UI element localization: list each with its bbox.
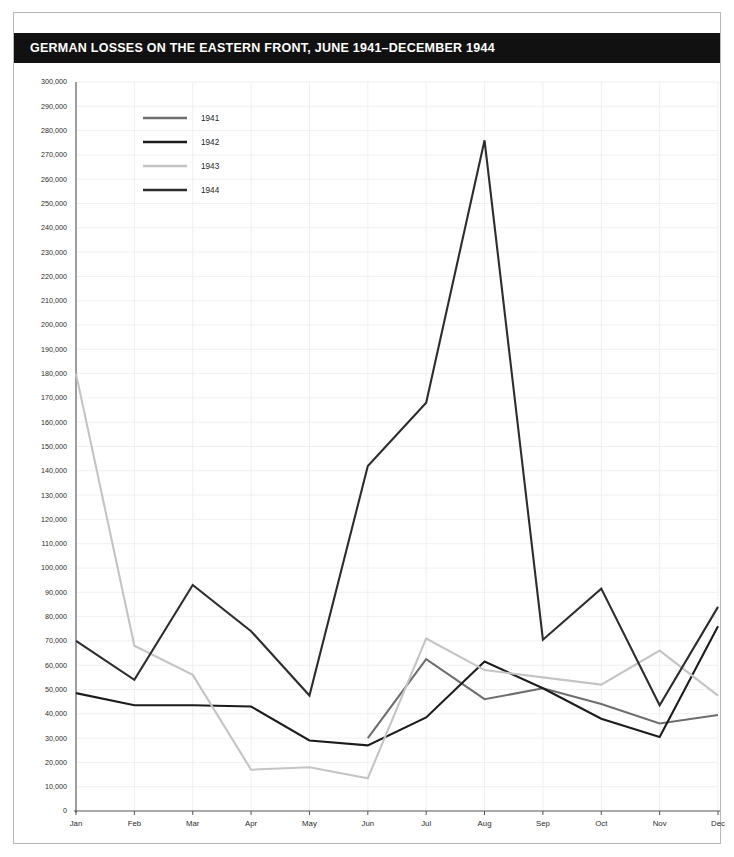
x-axis-tick-label: Jul — [421, 819, 431, 828]
y-axis-tick-label: 10,000 — [45, 782, 67, 791]
x-axis-tick-label: Dec — [711, 819, 725, 828]
x-axis-tick-label: Jan — [70, 819, 83, 828]
y-axis-tick-label: 90,000 — [45, 588, 67, 597]
x-axis-tick-label: Nov — [653, 819, 667, 828]
y-axis-tick-label: 240,000 — [41, 223, 67, 232]
y-axis-tick-label: 230,000 — [41, 248, 67, 257]
legend-label-1944: 1944 — [201, 186, 220, 195]
y-axis-tick-label: 170,000 — [41, 393, 67, 402]
y-axis-tick-label: 80,000 — [45, 612, 67, 621]
y-axis-tick-label: 300,000 — [41, 77, 67, 86]
y-axis-tick-label: 220,000 — [41, 272, 67, 281]
x-axis-tick-label: Feb — [128, 819, 142, 828]
y-axis-tick-label: 50,000 — [45, 685, 67, 694]
y-axis-tick-label: 20,000 — [45, 758, 67, 767]
y-axis-tick-label: 160,000 — [41, 418, 67, 427]
y-axis-tick-label: 70,000 — [45, 636, 67, 645]
y-axis-tick-label: 180,000 — [41, 369, 67, 378]
y-axis-tick-label: 140,000 — [41, 466, 67, 475]
y-axis-tick-label: 190,000 — [41, 345, 67, 354]
y-axis-tick-label: 60,000 — [45, 661, 67, 670]
line-chart: 300,000290,000280,000270,000260,000250,0… — [0, 0, 734, 857]
chart-page: GERMAN LOSSES ON THE EASTERN FRONT, JUNE… — [0, 0, 734, 857]
legend-label-1942: 1942 — [201, 138, 220, 147]
x-axis-tick-label: May — [302, 819, 317, 828]
y-axis-tick-label: 40,000 — [45, 709, 67, 718]
y-axis-tick-label: 30,000 — [45, 734, 67, 743]
y-axis-tick-label: 260,000 — [41, 175, 67, 184]
y-axis-tick-label: 110,000 — [42, 539, 67, 548]
x-axis-tick-label: Oct — [595, 819, 608, 828]
x-axis-tick-label: Aug — [478, 819, 492, 828]
y-axis-tick-label: 100,000 — [41, 563, 67, 572]
y-axis-tick-label: 130,000 — [41, 491, 67, 500]
x-axis-tick-label: Sep — [536, 819, 551, 828]
x-axis-tick-label: Jun — [362, 819, 375, 828]
legend-label-1943: 1943 — [201, 162, 220, 171]
y-axis-tick-label: 210,000 — [41, 296, 67, 305]
y-axis-tick-label: 270,000 — [41, 150, 67, 159]
plot-area: 300,000290,000280,000270,000260,000250,0… — [0, 0, 734, 857]
y-axis-tick-label: 250,000 — [41, 199, 67, 208]
y-axis-tick-label: 150,000 — [41, 442, 67, 451]
legend-label-1941: 1941 — [201, 114, 220, 123]
y-axis-tick-label: 280,000 — [41, 126, 67, 135]
y-axis-tick-label: 0 — [63, 806, 67, 815]
y-axis-tick-label: 120,000 — [41, 515, 67, 524]
y-axis-tick-label: 200,000 — [41, 320, 67, 329]
x-axis-tick-label: Apr — [245, 819, 258, 828]
y-axis-tick-label: 290,000 — [41, 102, 67, 111]
x-axis-tick-label: Mar — [186, 819, 200, 828]
